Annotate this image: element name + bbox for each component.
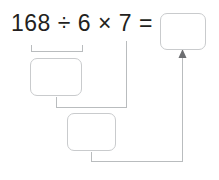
second-step-answer-box[interactable] xyxy=(67,113,116,151)
arrowhead-up-icon xyxy=(179,49,187,58)
connector-product-to-result xyxy=(92,152,183,162)
bracket-over-division xyxy=(32,45,83,52)
equation-expression: 168 ÷ 6 × 7 = xyxy=(11,12,153,35)
first-step-answer-box[interactable] xyxy=(30,58,82,96)
final-answer-box[interactable] xyxy=(160,13,206,50)
worksheet-canvas: 168 ÷ 6 × 7 = xyxy=(0,0,219,180)
connector-quotient-to-product xyxy=(57,97,127,108)
